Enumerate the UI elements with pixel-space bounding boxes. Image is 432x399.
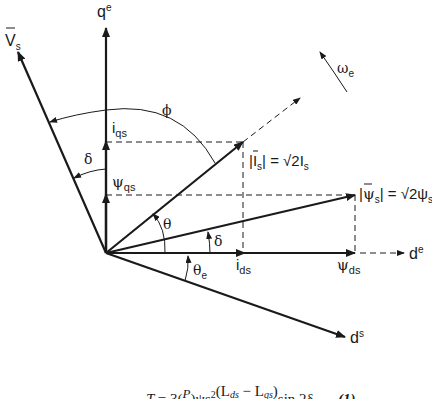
is-extension xyxy=(243,98,300,142)
qe-label: qe xyxy=(97,2,112,20)
phi-arc xyxy=(50,109,215,163)
phasor-diagram: qe Vs ϕ iqs δ ψqs |Is| = √2Is |ψs| = √2ψ… xyxy=(0,0,432,399)
theta-e-arc xyxy=(185,256,188,281)
projection-lines xyxy=(106,98,404,253)
vectors xyxy=(18,28,355,337)
theta-e-label: θe xyxy=(193,262,207,281)
delta-upper-label: δ xyxy=(84,151,92,167)
equation-number: (1) xyxy=(338,391,356,399)
delta-lower-arc xyxy=(208,232,210,253)
delta-upper-arc xyxy=(74,169,106,178)
iqs-label: iqs xyxy=(112,119,127,139)
ids-label: ids xyxy=(236,256,251,276)
de-label: de xyxy=(409,244,424,262)
ds-label: ds xyxy=(350,328,364,346)
delta-lower-label: δ xyxy=(214,233,222,249)
omega-e-label: ωe xyxy=(337,60,354,79)
vs-label: Vs xyxy=(5,32,21,52)
psids-label: ψds xyxy=(337,256,361,276)
phi-label: ϕ xyxy=(162,102,172,118)
is-magnitude-label: |Is| = √2Is xyxy=(249,152,309,172)
psiqs-label: ψqs xyxy=(112,173,136,193)
psis-magnitude-label: |ψs| = √2ψs xyxy=(359,185,432,205)
labels: qe Vs ϕ iqs δ ψqs |Is| = √2Is |ψs| = √2ψ… xyxy=(5,2,432,346)
vs-vector xyxy=(18,52,106,253)
equation-text: T = 3(P)ψs2(Lds − Lqs)sin 2δ xyxy=(146,383,314,399)
theta-label: θ xyxy=(163,216,171,232)
torque-equation: T = 3(P)ψs2(Lds − Lqs)sin 2δ (1) xyxy=(146,383,356,399)
ds-axis xyxy=(106,253,345,337)
